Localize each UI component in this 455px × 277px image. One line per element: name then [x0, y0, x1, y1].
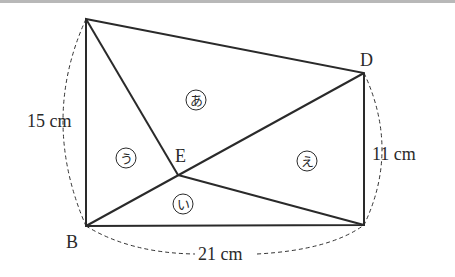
measure-bottom: 21 cm	[198, 244, 243, 264]
vertex-label-E: E	[175, 146, 186, 166]
measure-right: 11 cm	[372, 144, 416, 164]
vertex-label-D: D	[360, 50, 373, 70]
measure-left: 15 cm	[27, 111, 72, 131]
region-e-marker: え	[297, 151, 317, 171]
bottom-dimension-arc-right	[257, 225, 364, 254]
region-i-label: い	[177, 197, 190, 212]
region-u-marker: う	[116, 148, 136, 168]
region-a-label: あ	[190, 93, 203, 108]
segment-E-C	[178, 175, 364, 225]
bottom-dimension-arc-left	[86, 226, 195, 254]
region-a-marker: あ	[186, 90, 206, 110]
segment-B-D	[86, 73, 364, 226]
region-i-marker: い	[173, 194, 193, 214]
vertex-label-B: B	[66, 232, 78, 252]
quadrilateral-outline	[86, 19, 364, 226]
geometry-diagram: D E B 15 cm 11 cm 21 cm あ い う え	[0, 0, 455, 277]
region-u-label: う	[120, 151, 133, 166]
region-e-label: え	[301, 154, 314, 169]
